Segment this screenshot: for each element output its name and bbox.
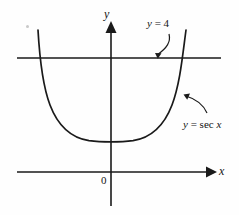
figure-canvas <box>0 0 239 215</box>
level-line-label: y = 4 <box>147 18 169 29</box>
x-axis-arrowhead-icon <box>206 167 217 178</box>
level-label-leader-line <box>157 34 170 55</box>
scan-speck-artifact <box>26 25 29 28</box>
level-label-value: 4 <box>164 17 170 29</box>
curve-label-variable-x: x <box>214 118 222 130</box>
y-axis-arrowhead-icon <box>106 21 117 33</box>
origin-label: 0 <box>101 175 107 186</box>
curve-label-function-name: sec <box>200 118 214 130</box>
secant-function-figure: y x 0 y = 4 y = sec x <box>0 0 239 215</box>
y-axis-label: y <box>104 8 109 20</box>
curve-label-leader-line <box>186 96 207 113</box>
level-label-equals: = <box>152 17 164 29</box>
secant-curve-path <box>38 30 186 142</box>
x-axis-label: x <box>219 165 224 177</box>
curve-label: y = sec x <box>183 119 221 130</box>
curve-label-equals: = <box>188 118 200 130</box>
